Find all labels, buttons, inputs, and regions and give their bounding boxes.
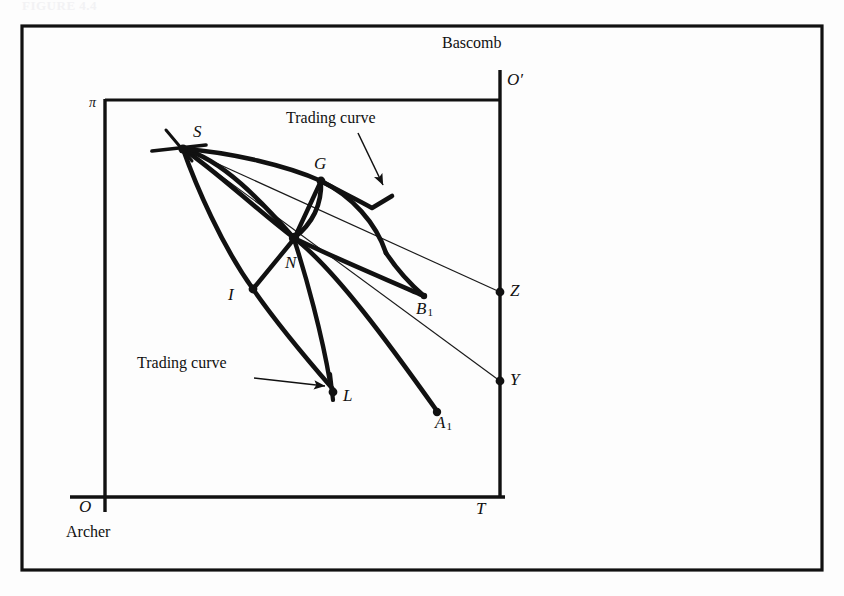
leader-arrow-trading-curve-lower [254, 378, 325, 386]
figure-root: FIGURE 4.4 [0, 0, 844, 596]
label-point-N: N [285, 254, 296, 271]
label-point-Z: Z [510, 282, 519, 299]
curve-N-descending [294, 239, 330, 382]
label-point-B1-subscript: 1 [426, 306, 433, 318]
label-point-G: G [314, 155, 326, 172]
label-O-origin: O [79, 498, 91, 515]
label-point-Y: Y [510, 371, 519, 388]
archer-trading-curve [183, 149, 332, 388]
ray-S-to-Z [183, 148, 500, 292]
point-dot-N [289, 233, 299, 243]
label-point-A1-subscript: 1 [445, 420, 452, 432]
label-O-prime: O′ [507, 71, 523, 88]
label-point-S: S [193, 123, 202, 140]
point-dot-S [178, 144, 187, 153]
archer-offer-curve-SNA1 [183, 149, 437, 411]
axis-title-bascomb: Bascomb [442, 35, 502, 51]
label-point-A1: A1 [435, 414, 452, 432]
axis-title-archer: Archer [66, 524, 110, 540]
label-pi: π [89, 96, 96, 110]
annotation-trading-curve-lower: Trading curve [137, 355, 227, 371]
label-point-B1: B1 [416, 300, 433, 318]
point-dot-Y [496, 377, 505, 386]
label-T: T [476, 500, 485, 517]
label-point-A1-base: A [435, 413, 445, 432]
point-dot-G [317, 177, 326, 186]
point-dot-I [249, 285, 258, 294]
annotation-trading-curve-upper: Trading curve [286, 110, 376, 126]
point-dot-L [329, 388, 338, 397]
label-point-B1-base: B [416, 299, 426, 318]
label-point-L: L [343, 387, 352, 404]
label-point-I: I [228, 286, 234, 303]
leader-arrow-trading-curve-upper [358, 133, 383, 185]
diagram-canvas [0, 0, 844, 596]
point-dot-Z [496, 288, 505, 297]
